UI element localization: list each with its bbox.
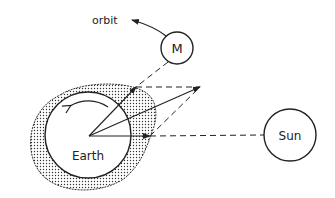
sun-label: Sun (279, 129, 302, 143)
orbit-arrow-icon (132, 20, 166, 36)
earth-label: Earth (72, 149, 104, 163)
orbit-label: orbit (92, 14, 118, 27)
parallelogram-right-edge (150, 87, 200, 136)
moon-direction-line (136, 62, 168, 87)
sun-direction-line (150, 135, 264, 136)
tidal-force-diagram: M orbit Sun Earth (0, 0, 335, 198)
moon-label: M (171, 41, 182, 56)
